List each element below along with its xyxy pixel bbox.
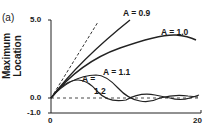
annotation-a-1.1: A = 1.1 — [103, 67, 130, 77]
series-a-1.2 — [51, 80, 199, 101]
annotation-a-1.2-prefix: A = — [82, 74, 95, 84]
annotation-a-0.9: A = 0.9 — [123, 8, 150, 18]
reference-slope-line — [51, 22, 98, 98]
annotation-a-1.2-value: 1.2 — [94, 86, 106, 96]
annotation-a-1.0: A = 1.0 — [161, 27, 188, 37]
